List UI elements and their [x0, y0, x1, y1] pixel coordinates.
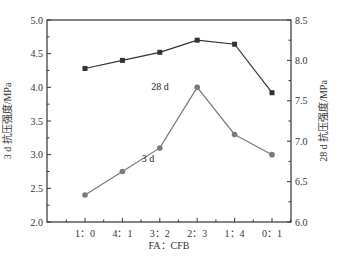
- series-line: [85, 40, 272, 93]
- left-y-axis: 2.02.53.03.54.04.55.0: [31, 15, 52, 228]
- right-tick-label: 7.5: [295, 95, 308, 106]
- left-y-axis-title: 3 d 抗压强度/MPa: [1, 82, 13, 159]
- x-tick-label: 1：4: [225, 228, 245, 239]
- x-tick-label: 2：3: [187, 228, 207, 239]
- right-y-axis-title: 28 d 抗压强度/MPa: [317, 80, 329, 162]
- circle-marker: [82, 192, 88, 198]
- right-tick-label: 8.0: [295, 55, 308, 66]
- left-tick-label: 5.0: [31, 15, 44, 26]
- left-tick-label: 4.5: [31, 48, 44, 59]
- x-tick-label: 1：0: [75, 228, 95, 239]
- circle-marker: [157, 145, 163, 151]
- circle-marker: [120, 169, 126, 175]
- plot-frame: [47, 20, 291, 222]
- right-tick-label: 6.0: [295, 217, 308, 228]
- series-line: [85, 87, 272, 195]
- square-marker: [270, 90, 275, 95]
- series-3d: 3 d: [82, 85, 275, 198]
- x-axis-title: FA：CFB: [149, 240, 190, 251]
- right-tick-label: 8.5: [295, 15, 308, 26]
- circle-marker: [194, 85, 200, 91]
- dual-axis-line-chart: 2.02.53.03.54.04.55.0 6.06.57.07.58.08.5…: [0, 0, 338, 261]
- left-tick-label: 2.5: [31, 183, 44, 194]
- x-axis: 1：04：13：22：31：40：1: [66, 218, 290, 239]
- left-tick-label: 3.0: [31, 149, 44, 160]
- square-marker: [120, 58, 125, 63]
- square-marker: [232, 42, 237, 47]
- square-marker: [195, 38, 200, 43]
- x-tick-label: 4：1: [112, 228, 132, 239]
- series-label: 3 d: [142, 153, 155, 164]
- square-marker: [157, 50, 162, 55]
- series-label: 28 d: [151, 81, 169, 92]
- series-28d: 28 d: [83, 38, 275, 96]
- left-tick-label: 4.0: [31, 82, 44, 93]
- circle-marker: [232, 132, 238, 138]
- series-layer: 28 d3 d: [82, 38, 275, 198]
- plot-border: [47, 20, 291, 222]
- circle-marker: [269, 152, 275, 158]
- x-tick-label: 0：1: [262, 228, 282, 239]
- right-tick-label: 6.5: [295, 176, 308, 187]
- square-marker: [83, 66, 88, 71]
- left-tick-label: 2.0: [31, 217, 44, 228]
- x-tick-label: 3：2: [150, 228, 170, 239]
- right-y-axis: 6.06.57.07.58.08.5: [287, 15, 308, 228]
- right-tick-label: 7.0: [295, 136, 308, 147]
- left-tick-label: 3.5: [31, 116, 44, 127]
